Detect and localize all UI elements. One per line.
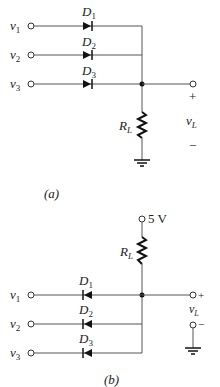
diode-d1-icon [83,290,92,300]
diode-d2-icon [83,319,92,329]
circuit-a: v1 D1 v2 D2 v3 [10,4,197,201]
supply-label: 5 V [148,211,168,226]
input-terminal-v2 [28,321,34,327]
input-terminal-v1 [28,23,34,29]
input-row-v1: v1 D1 [10,4,142,35]
input-label-v2: v2 [10,316,20,333]
diode-label-d2: D2 [81,34,96,51]
diode-d3-icon [83,348,92,358]
input-label-v1: v1 [10,287,20,304]
ground-icon [134,160,150,166]
input-terminal-v2 [28,52,34,58]
resistor-label-rl: RL [118,118,132,135]
output-minus: − [189,138,196,153]
caption-a: (a) [44,186,59,201]
output-terminal-plus [190,292,196,298]
input-row-v3: v3 D3 [10,63,142,93]
supply-terminal [139,216,145,222]
circuit-b: 5 V RL v1 D1 v2 D2 [10,211,204,387]
input-label-v1: v1 [10,18,20,35]
input-terminal-v3 [28,81,34,87]
output-label-vl: vL [189,302,199,318]
ground-icon [185,348,201,354]
diode-d2-icon [83,50,92,60]
input-label-v3: v3 [10,76,21,93]
input-terminal-v3 [28,350,34,356]
resistor-label-rl: RL [119,244,133,261]
resistor-rl-icon [138,237,146,264]
input-row-v2: v2 D2 [10,302,142,333]
output-label-vl: vL [186,113,197,130]
diode-label-d2: D2 [78,302,93,319]
resistor-rl-icon [138,112,146,138]
diode-label-d3: D3 [81,63,96,80]
input-row-v1: v1 D1 [10,273,142,304]
input-label-v2: v2 [10,47,20,64]
caption-b: (b) [104,372,119,387]
output-terminal-plus [190,81,196,87]
diode-label-d1: D1 [81,4,96,21]
output-terminal-minus [190,322,196,328]
diode-label-d3: D3 [78,331,93,348]
output-minus: − [198,318,204,330]
input-label-v3: v3 [10,345,21,362]
input-terminal-v1 [28,292,34,298]
diode-d1-icon [83,21,92,31]
diode-logic-circuits: v1 D1 v2 D2 v3 [0,0,220,387]
diode-label-d1: D1 [78,273,93,290]
diode-d3-icon [83,79,92,89]
output-plus: + [189,89,196,104]
output-plus: + [198,289,204,301]
input-row-v3: v3 D3 [10,331,142,362]
input-row-v2: v2 D2 [10,34,142,64]
